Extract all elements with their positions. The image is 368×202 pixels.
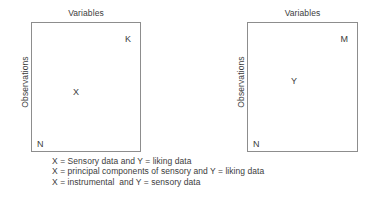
matrix-x-rows-letter: N bbox=[37, 139, 44, 149]
variables-label-x: Variables bbox=[31, 8, 141, 19]
observations-label-x: Observations bbox=[20, 17, 30, 147]
matrix-box-x: K X N bbox=[31, 22, 141, 152]
caption-line-2: X = principal components of sensory and … bbox=[52, 166, 352, 176]
caption-line-3: X = instrumental and Y = sensory data bbox=[52, 177, 352, 187]
observations-label-y: Observations bbox=[236, 17, 246, 147]
matrix-diagram: Variables Observations K X N Variables O… bbox=[0, 0, 368, 202]
matrix-y-columns-letter: M bbox=[341, 34, 349, 44]
matrix-x-center-letter: X bbox=[73, 87, 79, 97]
caption: X = Sensory data and Y = liking data X =… bbox=[52, 156, 352, 187]
caption-line-1: X = Sensory data and Y = liking data bbox=[52, 156, 352, 166]
matrix-x-columns-letter: K bbox=[125, 34, 131, 44]
matrix-box-y: M Y N bbox=[247, 22, 358, 152]
matrix-y-rows-letter: N bbox=[253, 139, 260, 149]
variables-label-y: Variables bbox=[247, 8, 358, 19]
matrix-y-center-letter: Y bbox=[291, 76, 297, 86]
